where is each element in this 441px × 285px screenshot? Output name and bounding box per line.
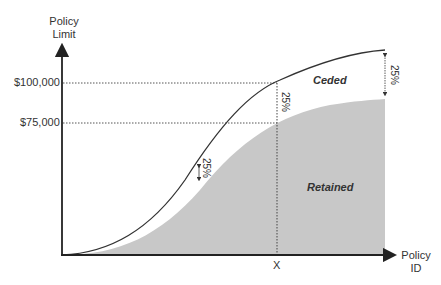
x-axis-label: Policy ID: [396, 249, 436, 275]
x-axis-label-line2: ID: [396, 262, 436, 275]
x-axis-label-line1: Policy: [396, 249, 436, 262]
ceded-label: Ceded: [313, 74, 347, 86]
pct-label-mid: 25%: [280, 92, 291, 112]
x-tick-x: X: [273, 259, 280, 271]
chart-canvas: [0, 0, 441, 285]
y-axis-label: Policy Limit: [44, 15, 84, 41]
pct-label-right: 25%: [389, 65, 400, 85]
y-axis-label-line2: Limit: [44, 28, 84, 41]
y-tick-100k: $100,000: [14, 76, 60, 88]
retained-area: [62, 99, 385, 255]
y-axis-label-line1: Policy: [44, 15, 84, 28]
y-tick-75k: $75,000: [20, 116, 60, 128]
pct-label-left: 25%: [201, 158, 212, 178]
retained-label: Retained: [307, 181, 353, 193]
